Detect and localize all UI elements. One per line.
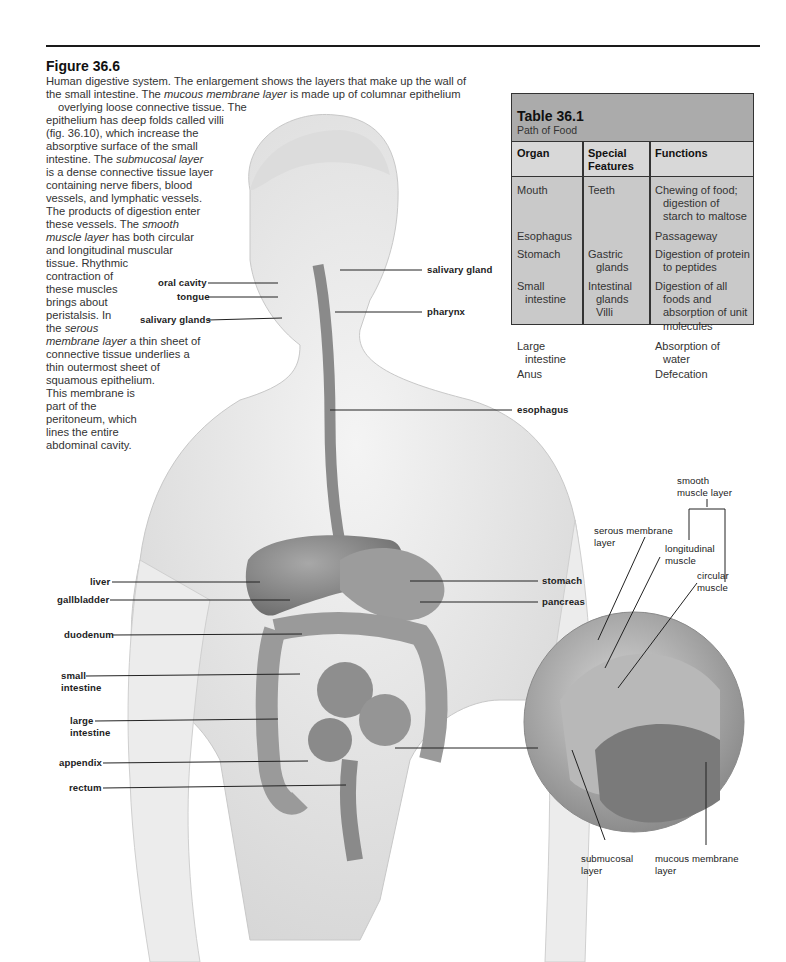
label-mucous-membrane-layer: mucous membrane bbox=[655, 853, 739, 865]
table-row-organ: Mouth bbox=[517, 184, 548, 197]
label-small-intestine: small bbox=[61, 670, 86, 682]
table-row-organ: Anus bbox=[517, 368, 542, 381]
column-divider bbox=[649, 142, 651, 324]
table-row-organ: Esophagus bbox=[517, 230, 572, 243]
label-smooth-muscle-layer: smooth bbox=[677, 475, 709, 487]
table-header: Table 36.1 Path of Food bbox=[512, 94, 753, 142]
label-large-intestine-2: intestine bbox=[70, 727, 110, 739]
column-divider bbox=[582, 142, 584, 324]
column-header-functions: Functions bbox=[655, 147, 708, 160]
label-serous-membrane-layer-2: layer bbox=[594, 537, 615, 549]
label-esophagus: esophagus bbox=[517, 404, 569, 416]
label-stomach: stomach bbox=[542, 575, 582, 587]
label-large-intestine: large bbox=[70, 715, 93, 727]
column-header-organ: Organ bbox=[517, 147, 549, 160]
table-row-features: Intestinal glands Villi bbox=[588, 280, 632, 320]
label-oral-cavity: oral cavity bbox=[158, 277, 207, 289]
table-row-functions: Digestion of all foods and absorption of… bbox=[655, 280, 747, 333]
label-liver: liver bbox=[90, 576, 110, 588]
label-salivary-glands: salivary glands bbox=[140, 314, 211, 326]
table-row-functions: Passageway bbox=[655, 230, 717, 243]
label-small-intestine-2: intestine bbox=[61, 682, 101, 694]
label-longitudinal-muscle: longitudinal bbox=[665, 543, 715, 555]
label-circular-muscle: circular bbox=[697, 570, 729, 582]
label-appendix: appendix bbox=[59, 757, 102, 769]
label-circular-muscle-2: muscle bbox=[697, 582, 728, 594]
label-smooth-muscle-layer-2: muscle layer bbox=[677, 487, 732, 499]
label-longitudinal-muscle-2: muscle bbox=[665, 555, 696, 567]
table-row-features: Gastric glands bbox=[588, 248, 628, 274]
table-row-organ: Large intestine bbox=[517, 340, 566, 366]
label-salivary-gland: salivary gland bbox=[427, 264, 492, 276]
table-row-functions: Chewing of food; digestion of starch to … bbox=[655, 184, 747, 224]
label-submucosal-layer: submucosal bbox=[581, 853, 633, 865]
label-mucous-membrane-layer-2: layer bbox=[655, 865, 676, 877]
table-row-features: Teeth bbox=[588, 184, 615, 197]
table-row-organ: Small intestine bbox=[517, 280, 566, 306]
table-row-functions: Defecation bbox=[655, 368, 708, 381]
label-serous-membrane-layer: serous membrane bbox=[594, 525, 673, 537]
label-gallbladder: gallbladder bbox=[57, 594, 109, 606]
path-of-food-table: Table 36.1 Path of Food Organ SpecialFea… bbox=[511, 93, 754, 325]
table-subtitle: Path of Food bbox=[517, 124, 753, 136]
label-rectum: rectum bbox=[69, 782, 102, 794]
label-duodenum: duodenum bbox=[64, 629, 114, 641]
column-header-features: SpecialFeatures bbox=[588, 147, 634, 173]
label-tongue: tongue bbox=[177, 291, 210, 303]
table-row-functions: Digestion of protein to peptides bbox=[655, 248, 750, 274]
table-row-organ: Stomach bbox=[517, 248, 560, 261]
table-row-functions: Absorption of water bbox=[655, 340, 720, 366]
label-submucosal-layer-2: layer bbox=[581, 865, 602, 877]
table-title: Table 36.1 bbox=[517, 109, 753, 124]
label-pharynx: pharynx bbox=[427, 306, 465, 318]
label-pancreas: pancreas bbox=[542, 596, 585, 608]
